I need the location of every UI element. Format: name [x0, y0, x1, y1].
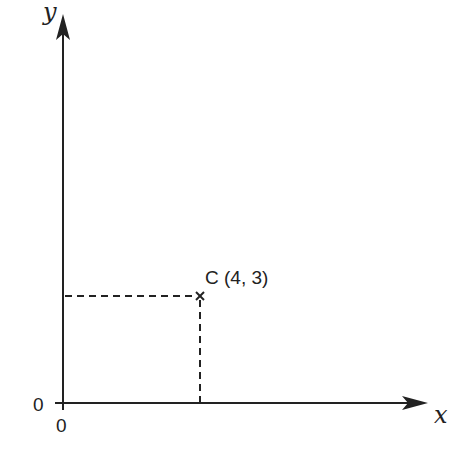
point-c-label: C (4, 3) — [205, 267, 268, 288]
origin-x-label: 0 — [56, 415, 67, 436]
coordinate-diagram: C (4, 3) y x 0 0 — [0, 0, 472, 461]
y-axis-label: y — [42, 0, 57, 26]
x-axis-label: x — [434, 401, 448, 429]
point-c-marker-icon — [196, 292, 204, 300]
origin-y-label: 0 — [33, 394, 44, 415]
